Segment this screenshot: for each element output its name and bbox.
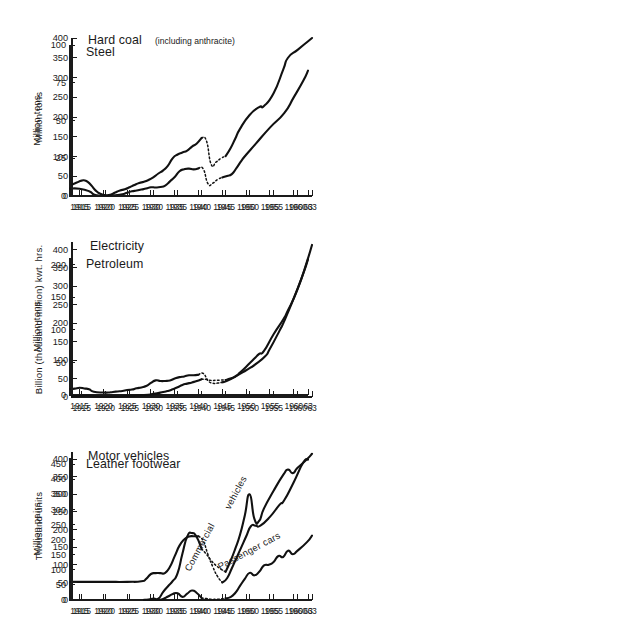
x-tick-label: 1955	[264, 202, 283, 212]
y-tick-label: 250	[53, 92, 68, 102]
x-tick-label: 1930	[144, 606, 163, 616]
y-tick-label: 250	[53, 300, 68, 310]
x-tick-label: 1955	[264, 403, 283, 413]
x-tick-label: 1955	[264, 606, 283, 616]
panel-title: Motor vehicles	[88, 449, 169, 463]
y-tick-label: 200	[53, 525, 68, 535]
x-tick-label: 1945	[216, 202, 235, 212]
series-line	[70, 375, 199, 393]
x-tick-label: 1925	[120, 606, 139, 616]
x-tick-label: 63	[307, 403, 317, 413]
panel-title: Electricity	[90, 239, 145, 253]
y-tick-label: 50	[58, 171, 68, 181]
x-tick-label: 1945	[216, 403, 235, 413]
x-tick-label: 1960	[288, 202, 307, 212]
x-tick-label: 1925	[120, 202, 139, 212]
x-tick-label: 1940	[192, 606, 211, 616]
panel-title: Hard coal	[88, 33, 142, 47]
x-tick-label: 1960	[288, 606, 307, 616]
x-tick-label: 1950	[240, 606, 259, 616]
panel-title: Steel	[86, 45, 115, 59]
y-tick-label: 150	[53, 542, 68, 552]
x-tick-label: 1915	[72, 202, 91, 212]
x-tick-label: 1935	[168, 606, 187, 616]
panel-title: Petroleum	[86, 257, 143, 271]
y-tick-label: 0	[63, 392, 68, 402]
y-tick-label: 100	[53, 152, 68, 162]
x-tick-label: 1935	[168, 403, 187, 413]
series-line	[70, 536, 199, 582]
series-line	[222, 71, 308, 178]
x-tick-label: 1930	[144, 403, 163, 413]
panel-title-subtitle: (including anthracite)	[155, 36, 235, 46]
x-tick-label: 1945	[216, 606, 235, 616]
x-tick-label: 1960	[288, 403, 307, 413]
y-tick-label: 350	[53, 53, 68, 63]
x-tick-label: 1950	[240, 202, 259, 212]
x-tick-label: 63	[307, 202, 317, 212]
chart-panel-electricity: 0501001502002503003504001915192019251930…	[320, 222, 338, 431]
y-tick-label: 200	[53, 112, 68, 122]
y-tick-label: 0	[63, 595, 68, 605]
y-axis-title: Million tons	[33, 92, 44, 142]
x-tick-label: 1935	[168, 202, 187, 212]
y-tick-label: 50	[58, 578, 68, 588]
y-tick-label: 150	[53, 337, 68, 347]
x-tick-label: 1950	[240, 403, 259, 413]
chart-panel-hard-coal: 0501001502002503003504001915192019251930…	[320, 8, 338, 230]
x-tick-label: 1915	[72, 606, 91, 616]
y-tick-label: 100	[53, 355, 68, 365]
figure-sheet: 0255075100191519201925193019351940194519…	[0, 0, 626, 642]
y-tick-label: 50	[58, 374, 68, 384]
axes	[70, 458, 308, 600]
series-group	[70, 71, 308, 196]
y-axis-title: Billion (thousand million) kwt. hrs.	[33, 245, 44, 395]
x-tick-label: 1930	[144, 202, 163, 212]
y-tick-label: 100	[53, 560, 68, 570]
series-group	[70, 259, 308, 392]
y-tick-label: 200	[53, 318, 68, 328]
y-axis-title: Thousand units	[33, 492, 44, 560]
x-tick-label: 1920	[96, 606, 115, 616]
series-line	[199, 373, 223, 384]
y-tick-label: 0	[63, 191, 68, 201]
series-line	[199, 167, 223, 186]
series-line	[222, 259, 308, 382]
x-tick-label: 1925	[120, 403, 139, 413]
x-tick-label: 1940	[192, 202, 211, 212]
y-tick-label: 350	[53, 263, 68, 273]
y-tick-label: 300	[53, 489, 68, 499]
y-tick-label: 150	[53, 132, 68, 142]
y-tick-label: 400	[53, 245, 68, 255]
x-tick-label: 1915	[72, 403, 91, 413]
y-tick-label: 300	[53, 73, 68, 83]
y-tick-label: 400	[53, 454, 68, 464]
y-tick-label: 250	[53, 507, 68, 517]
y-tick-label: 400	[53, 33, 68, 43]
x-tick-label: 1920	[96, 202, 115, 212]
y-tick-label: 350	[53, 472, 68, 482]
axes	[70, 45, 308, 196]
chart-panel-motor-vehicles: 0501001502002503003504001915192019251930…	[320, 432, 338, 634]
x-tick-label: 1920	[96, 403, 115, 413]
x-tick-label: 1940	[192, 403, 211, 413]
y-tick-label: 300	[53, 281, 68, 291]
x-tick-label: 63	[307, 606, 317, 616]
